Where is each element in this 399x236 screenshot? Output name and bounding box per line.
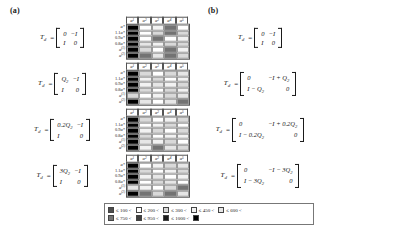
column-header: α2 — [138, 155, 150, 162]
heatmap-grid-wrap: α*1.1α*0.9α*0.8α*α(1)α(2) — [112, 116, 190, 152]
heatmap-row-labels: α*1.1α*0.9α*0.8α*α(1)α(2) — [112, 116, 126, 152]
matrix: 0−I − 3Q2I − 3Q20 — [237, 164, 299, 188]
bracket-right — [278, 28, 282, 48]
formula-lhs: Td — [224, 79, 230, 88]
matrix-grid: 0.2Q2−II0 — [54, 119, 86, 141]
heatmap-inner: α1α2α3α4α5α*1.1α*0.9α*0.8α*α(1)α(2) — [112, 109, 190, 152]
formula-lhs: Td — [221, 171, 227, 180]
heatmap-row-labels: α*1.1α*0.9α*0.8α*α(1)α(2) — [112, 162, 126, 198]
heatmap-column-headers: α1α2α3α4α5 — [126, 109, 190, 116]
figure-row: Td=0−I − 3Q2I − 3Q20α1α2α3α4α5α*1.1α*0.9… — [200, 153, 399, 199]
heatmap-column-headers: α1α2α3α4α5 — [126, 17, 190, 24]
heatmap-grid-wrap: α*1.1α*0.9α*0.8α*α(1)α(2) — [112, 70, 190, 106]
heatmap-grid-wrap: α*1.1α*0.9α*0.8α*α(1)α(2) — [112, 24, 190, 60]
matrix-formula: Td=0−II0 — [14, 28, 110, 48]
bracket-right — [84, 165, 88, 187]
matrix: 0.2Q2−II0 — [50, 119, 90, 141]
panel-a-label: (a) — [10, 6, 20, 15]
heatmap-cell — [177, 99, 189, 105]
matrix-cell-m22: 0 — [266, 176, 294, 187]
matrix-grid: Q2−II0 — [58, 73, 82, 95]
heatmap-row-labels: α*1.1α*0.9α*0.8α*α(1)α(2) — [112, 70, 126, 106]
heatmap-cell — [127, 99, 139, 105]
heatmap: α1α2α3α4α5α*1.1α*0.9α*0.8α*α(1)α(2) — [112, 155, 190, 198]
panel-b: (b) Td=0−II0α1α2α3α4α5α*1.1α*0.9α*0.8α*α… — [200, 0, 399, 200]
matrix-cell-m11: 0 — [61, 29, 68, 38]
legend-swatch — [163, 215, 169, 221]
legend-line-1: ≤ 100 <≤ 200 <≤ 300 <≤ 450 <≤ 600 < — [108, 206, 310, 214]
bracket-right — [82, 73, 86, 95]
formula-equals: = — [50, 34, 54, 42]
column-header: α4 — [163, 155, 175, 162]
heatmap-cell — [152, 53, 164, 59]
legend-item: ≤ 450 < — [191, 207, 219, 213]
legend-label: ≤ 1000 < — [171, 216, 189, 221]
legend: ≤ 100 <≤ 200 <≤ 300 <≤ 450 <≤ 600 < ≤ 75… — [104, 203, 314, 225]
matrix: Q2−II0 — [54, 73, 86, 95]
matrix-cell-m22: 0 — [266, 84, 291, 95]
legend-item: ≤ 600 < — [218, 207, 246, 213]
column-header: α4 — [163, 109, 175, 116]
column-header: α1 — [126, 17, 138, 24]
formula-equals: = — [231, 172, 235, 180]
matrix-cell-m22: 0 — [70, 85, 81, 94]
formula-equals: = — [248, 34, 252, 42]
heatmap-cell — [139, 191, 151, 197]
formula-equals: = — [48, 80, 52, 88]
matrix-formula: Td=3Q2−II0 — [14, 165, 110, 187]
matrix: 0−II0 — [56, 28, 84, 48]
matrix-cell-m21: I — [61, 38, 68, 47]
heatmap-cell — [152, 145, 164, 151]
bracket-right — [86, 119, 90, 141]
heatmap-cell — [139, 53, 151, 59]
formula-lhs: Td — [216, 125, 222, 134]
panel-a: (a) Td=0−II0α1α2α3α4α5α*1.1α*0.9α*0.8α*α… — [0, 0, 199, 200]
formula-equals: = — [226, 126, 230, 134]
figure-row: Td=0.2Q2−II0α1α2α3α4α5α*1.1α*0.9α*0.8α*α… — [0, 107, 199, 153]
column-header: α4 — [163, 17, 175, 24]
matrix-cell-m11: 0 — [259, 29, 266, 38]
matrix-formula: Td=0−II0 — [206, 28, 314, 48]
matrix-cell-m12: −I + 0.2Q2 — [266, 119, 299, 130]
figure-row: Td=Q2−II0α1α2α3α4α5α*1.1α*0.9α*0.8α*α(1)… — [0, 61, 199, 107]
matrix-cell-m12: −I — [74, 120, 85, 131]
legend-swatch — [191, 207, 197, 213]
matrix-cell-m11: 3Q2 — [58, 166, 72, 177]
heatmap-inner: α1α2α3α4α5α*1.1α*0.9α*0.8α*α(1)α(2) — [112, 17, 190, 60]
heatmap-cell — [177, 145, 189, 151]
bracket-right — [300, 118, 304, 142]
matrix-formula: Td=Q2−II0 — [14, 73, 110, 95]
matrix-cell-m12: −I − 3Q2 — [266, 165, 294, 176]
legend-label: ≤ 200 < — [144, 208, 160, 213]
column-header: α5 — [176, 63, 188, 70]
heatmap-cells — [126, 24, 190, 60]
legend-label: ≤ 100 < — [116, 208, 132, 213]
figure-row: Td=3Q2−II0α1α2α3α4α5α*1.1α*0.9α*0.8α*α(1… — [0, 153, 199, 199]
panel-b-label: (b) — [208, 6, 218, 15]
heatmap-row-labels: α*1.1α*0.9α*0.8α*α(1)α(2) — [112, 24, 126, 60]
heatmap-cells — [126, 162, 190, 198]
matrix-cell-m21: I — [59, 85, 70, 94]
legend-swatch — [136, 207, 142, 213]
heatmap-cell — [127, 53, 139, 59]
matrix-cell-m21: I — [58, 177, 72, 186]
legend-swatch — [193, 215, 199, 221]
matrix-cell-m12: −I — [72, 166, 83, 177]
matrix-cell-m12: −I — [69, 29, 80, 38]
column-header: α2 — [138, 17, 150, 24]
column-header: α5 — [176, 155, 188, 162]
legend-item: ≤ 300 < — [163, 207, 191, 213]
matrix-cell-m22: 0 — [267, 38, 278, 47]
matrix-cell-m22: 0 — [69, 38, 80, 47]
matrix-grid: 0−I + Q2I − Q20 — [244, 72, 292, 96]
legend-item: ≤ 750 < — [108, 215, 136, 221]
legend-swatch — [218, 207, 224, 213]
heatmap-cells — [126, 116, 190, 152]
column-header: α1 — [126, 109, 138, 116]
matrix-cell-m21: I − 0.2Q2 — [237, 130, 266, 141]
matrix-cell-m22: 0 — [72, 177, 83, 186]
heatmap-column-headers: α1α2α3α4α5 — [126, 63, 190, 70]
matrix-cell-m12: −I + Q2 — [266, 73, 291, 84]
column-header: α1 — [126, 155, 138, 162]
heatmap-cell — [127, 191, 139, 197]
